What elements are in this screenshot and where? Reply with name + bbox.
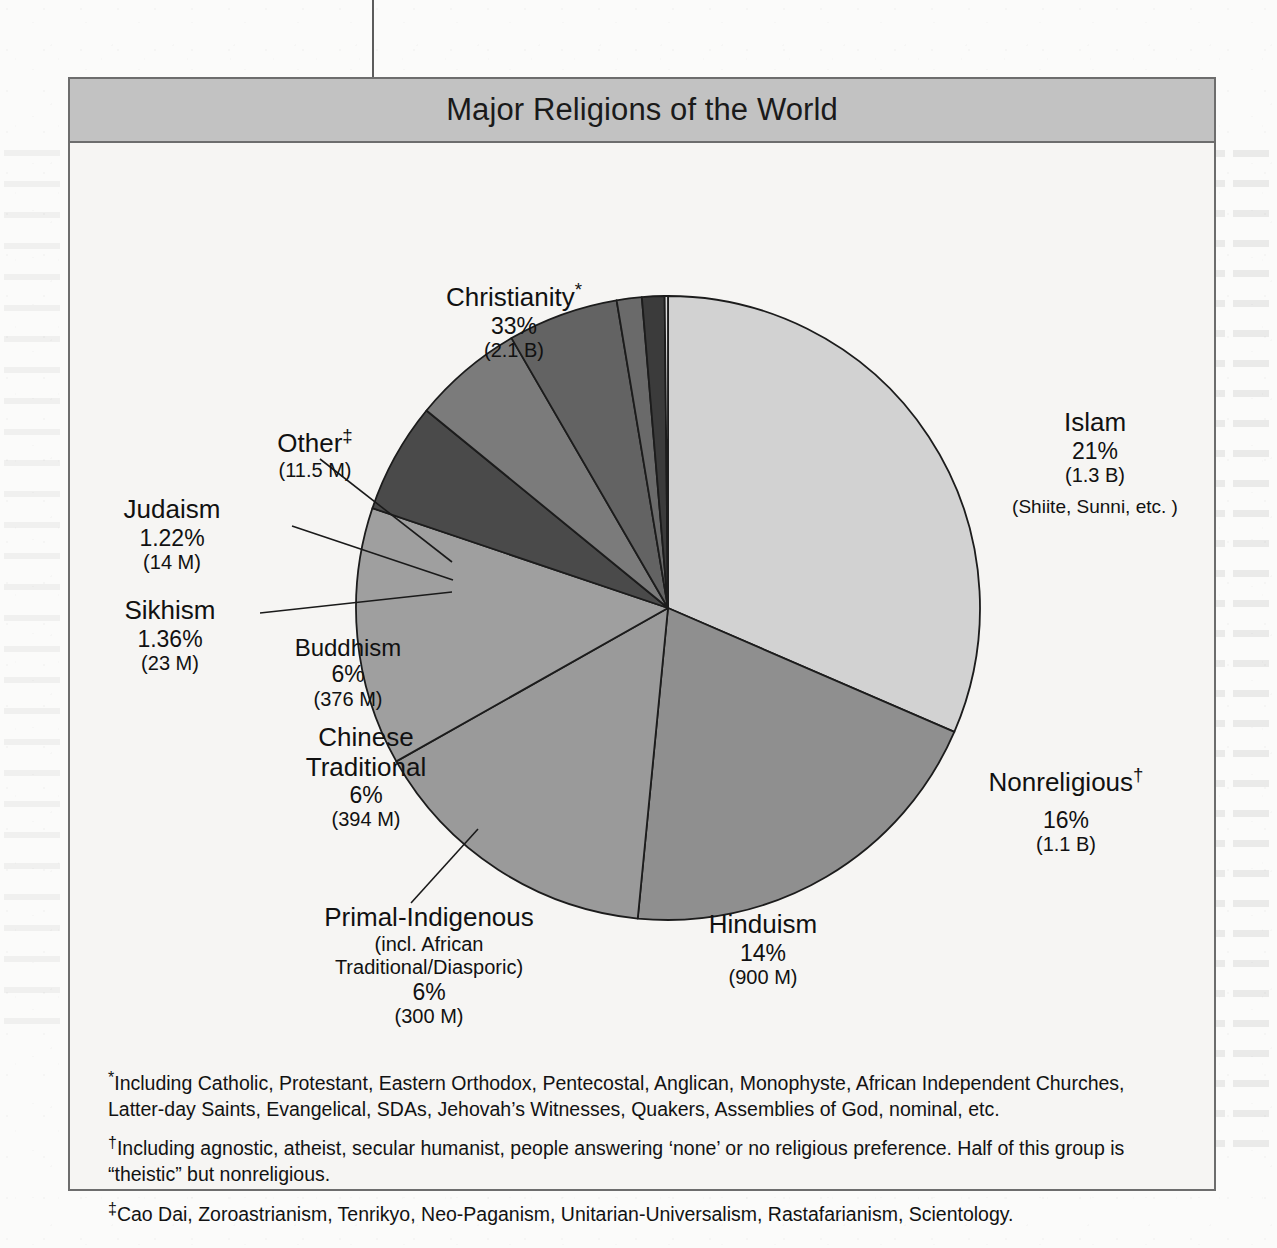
label-chinese-traditional-name-1: Chinese [261,723,471,753]
footnote-marker-star: * [575,279,582,300]
figure-container: Major Religions of the World Christianit… [68,77,1216,1191]
label-nonreligious-name: Nonreligious† [930,768,1202,798]
label-buddhism-count: (376 M) [248,688,448,711]
figure-title-band: Major Religions of the World [70,79,1214,143]
column-rule [372,0,374,78]
label-primal-indigenous-name: Primal-Indigenous [269,903,589,933]
label-hinduism: Hinduism 14% (900 M) [648,910,878,989]
label-buddhism: Buddhism 6% (376 M) [248,634,448,710]
label-primal-indigenous: Primal-Indigenous (incl. African Traditi… [269,903,589,1028]
label-christianity-percent: 33% [374,313,654,339]
label-christianity: Christianity* 33% (2.1 B) [374,283,654,362]
label-hinduism-name: Hinduism [648,910,878,940]
label-judaism: Judaism 1.22% (14 M) [82,495,262,574]
page-bleed-through-left [4,150,60,1030]
label-hinduism-percent: 14% [648,940,878,966]
label-christianity-name: Christianity* [374,283,654,313]
label-other: Other‡ (11.5 M) [225,429,405,481]
label-islam-count: (1.3 B) [970,464,1220,487]
footnote-marker: † [108,1134,117,1151]
leader-line-primal [411,829,478,903]
footnote-item: *Including Catholic, Protestant, Eastern… [108,1070,1168,1122]
label-nonreligious: Nonreligious† 16% (1.1 B) [930,768,1202,856]
label-islam-percent: 21% [970,438,1220,464]
footnote-marker: ‡ [108,1199,117,1216]
label-sikhism-count: (23 M) [80,652,260,675]
footnote-marker-double-dagger: ‡ [342,425,352,446]
label-sikhism-name: Sikhism [80,596,260,626]
label-judaism-name: Judaism [82,495,262,525]
label-other-name: Other‡ [225,429,405,459]
label-hinduism-count: (900 M) [648,966,878,989]
footnote-item: †Including agnostic, atheist, secular hu… [108,1135,1168,1187]
footnote-marker-dagger: † [1133,764,1143,785]
label-nonreligious-count: (1.1 B) [930,833,1202,856]
label-primal-indigenous-percent: 6% [269,979,589,1005]
label-other-count: (11.5 M) [225,459,405,482]
label-buddhism-percent: 6% [248,661,448,687]
label-judaism-count: (14 M) [82,551,262,574]
footnote-text: Cao Dai, Zoroastrianism, Tenrikyo, Neo-P… [117,1203,1014,1225]
label-islam-note: (Shiite, Sunni, etc. ) [970,496,1220,518]
label-christianity-count: (2.1 B) [374,339,654,362]
figure-body: Christianity* 33% (2.1 B) Islam 21% (1.3… [70,143,1214,1189]
label-primal-indigenous-sub2: Traditional/Diasporic) [269,956,589,979]
label-primal-indigenous-count: (300 M) [269,1005,589,1028]
label-islam: Islam 21% (1.3 B) (Shiite, Sunni, etc. ) [970,408,1220,517]
label-chinese-traditional: Chinese Traditional 6% (394 M) [261,723,471,831]
label-sikhism: Sikhism 1.36% (23 M) [80,596,260,675]
footnote-text: Including Catholic, Protestant, Eastern … [108,1072,1125,1120]
footnote-item: ‡Cao Dai, Zoroastrianism, Tenrikyo, Neo-… [108,1201,1168,1227]
page-title: Major Religions of the World [446,92,838,128]
label-nonreligious-percent: 16% [930,807,1202,833]
footnote-block: *Including Catholic, Protestant, Eastern… [108,1070,1168,1227]
label-chinese-traditional-name-2: Traditional [261,753,471,783]
label-judaism-percent: 1.22% [82,525,262,551]
label-chinese-traditional-percent: 6% [261,782,471,808]
footnote-text: Including agnostic, atheist, secular hum… [108,1137,1124,1185]
label-sikhism-percent: 1.36% [80,626,260,652]
label-buddhism-name: Buddhism [248,634,448,661]
label-islam-name: Islam [970,408,1220,438]
label-primal-indigenous-sub1: (incl. African [269,933,589,956]
label-chinese-traditional-count: (394 M) [261,808,471,831]
